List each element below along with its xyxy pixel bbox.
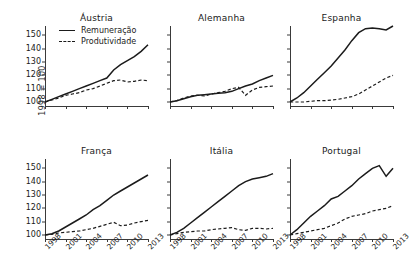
series-group bbox=[290, 26, 393, 106]
x-tick-mark bbox=[45, 106, 46, 109]
x-tick-mark bbox=[232, 106, 233, 109]
y-tick-label: 120 bbox=[26, 204, 41, 212]
x-axis-line bbox=[45, 106, 148, 107]
series-group bbox=[290, 159, 393, 239]
x-tick-mark bbox=[252, 106, 253, 109]
line-produtividade bbox=[170, 228, 273, 235]
series-group bbox=[170, 26, 273, 106]
x-axis-line bbox=[290, 106, 393, 107]
x-tick-mark bbox=[86, 106, 87, 109]
x-tick-mark bbox=[170, 106, 171, 109]
legend: RemuneraçãoProdutividade bbox=[59, 25, 136, 47]
y-tick-label: 110 bbox=[26, 85, 41, 93]
legend-key-remuneracao bbox=[59, 30, 75, 31]
x-tick-mark bbox=[352, 106, 353, 109]
y-tick-label: 150 bbox=[26, 31, 41, 39]
line-remuneracao bbox=[170, 174, 273, 235]
x-axis-line bbox=[170, 106, 273, 107]
y-tick-label: 130 bbox=[26, 191, 41, 199]
line-produtividade bbox=[170, 86, 273, 102]
legend-label: Produtividade bbox=[81, 37, 136, 46]
x-tick-label: 2013 bbox=[391, 231, 411, 251]
y-tick-label: 130 bbox=[26, 58, 41, 66]
line-produtividade bbox=[290, 75, 393, 102]
line-produtividade bbox=[45, 220, 148, 235]
plot-area bbox=[170, 26, 273, 106]
legend-label: Remuneração bbox=[81, 26, 136, 35]
y-tick-label: 100 bbox=[26, 98, 41, 106]
legend-item-remuneracao: Remuneração bbox=[59, 25, 136, 36]
x-tick-mark bbox=[311, 106, 312, 109]
panel-title: Portugal bbox=[290, 146, 393, 156]
plot-area: 199820012004200720102013 bbox=[170, 159, 273, 239]
x-tick-mark bbox=[273, 106, 274, 109]
x-tick-mark bbox=[290, 106, 291, 109]
panel-title: Alemanha bbox=[170, 13, 273, 23]
line-remuneracao bbox=[45, 45, 148, 102]
plot-area bbox=[290, 26, 393, 106]
legend-key-produtividade bbox=[59, 41, 75, 42]
legend-item-produtividade: Produtividade bbox=[59, 36, 136, 47]
x-tick-mark bbox=[127, 106, 128, 109]
series-group bbox=[45, 159, 148, 239]
panel-title: Espanha bbox=[290, 13, 393, 23]
x-tick-mark bbox=[107, 106, 108, 109]
x-tick-mark bbox=[393, 106, 394, 109]
y-tick-label: 140 bbox=[26, 45, 41, 53]
panel-title: França bbox=[45, 146, 148, 156]
x-tick-mark bbox=[66, 106, 67, 109]
line-remuneracao bbox=[170, 75, 273, 102]
panel-title: Áustria bbox=[45, 13, 148, 23]
y-tick-label: 110 bbox=[26, 218, 41, 226]
y-tick-label: 100 bbox=[26, 231, 41, 239]
x-tick-mark bbox=[372, 106, 373, 109]
line-produtividade bbox=[45, 80, 148, 102]
plot-area: 1001101201301401501998200120042007201020… bbox=[45, 159, 148, 239]
y-tick-label: 150 bbox=[26, 164, 41, 172]
x-tick-label: 2013 bbox=[146, 231, 166, 251]
x-tick-mark bbox=[211, 106, 212, 109]
y-tick-label: 120 bbox=[26, 71, 41, 79]
x-tick-mark bbox=[148, 106, 149, 109]
plot-area: 199820012004200720102013 bbox=[290, 159, 393, 239]
line-remuneracao bbox=[290, 166, 393, 235]
x-tick-mark bbox=[191, 106, 192, 109]
line-remuneracao bbox=[290, 26, 393, 102]
panel-title: Itália bbox=[170, 146, 273, 156]
y-tick-label: 140 bbox=[26, 178, 41, 186]
x-tick-mark bbox=[331, 106, 332, 109]
line-remuneracao bbox=[45, 175, 148, 235]
series-group bbox=[170, 159, 273, 239]
